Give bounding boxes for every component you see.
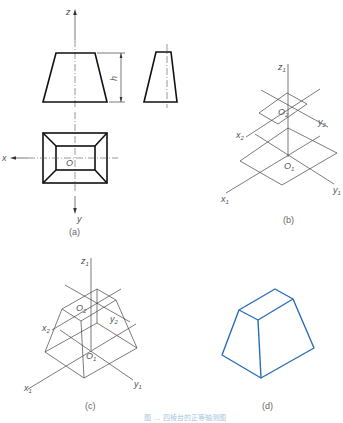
x-label: x: [1, 153, 7, 163]
side-view-trapezoid: [144, 52, 177, 102]
frustum-front-edge: [258, 320, 261, 378]
top-view-edge: [43, 133, 56, 146]
z1-label: z1: [277, 62, 286, 73]
panel-c: z1 O2 x2 y2 O1 x1 y1 (c): [23, 256, 142, 411]
y1-label: y1: [133, 379, 142, 390]
o2-label: O2: [278, 107, 289, 118]
frustum-axonometric-figure: z h x O y (a) z1: [0, 0, 343, 423]
panel-a-label: (a): [69, 227, 80, 237]
top-view-edge: [43, 170, 56, 183]
z-label: z: [65, 7, 71, 17]
figure-caption: 图 ... 四棱台的正等轴测图: [100, 412, 270, 421]
lateral-edge: [81, 321, 84, 378]
frustum-outline: [222, 299, 314, 378]
frustum-top-face: [239, 289, 293, 320]
y-label: y: [76, 214, 82, 224]
x1-label: x1: [220, 194, 229, 205]
x-arrow-icon: [10, 156, 16, 160]
panel-b-label: (b): [283, 215, 294, 225]
top-face: [62, 289, 116, 321]
x2-label: x2: [235, 130, 245, 141]
x1-label: x1: [23, 383, 32, 394]
origin-label: O: [66, 158, 73, 168]
x2-label: x2: [41, 323, 51, 334]
o2-label: O2: [76, 303, 87, 314]
y2-label: y2: [109, 314, 119, 325]
dim-arrow-icon: [120, 97, 123, 102]
top-view-edge: [95, 170, 107, 183]
o1-label: O1: [284, 161, 294, 172]
panel-d: (d): [222, 289, 314, 411]
o1-label: O1: [86, 351, 96, 362]
h-label: h: [109, 76, 119, 81]
z1-label: z1: [80, 256, 89, 267]
top-view-edge: [95, 133, 107, 146]
y1-axis: [60, 330, 133, 380]
panel-b: z1 O2 x2 y2 O1 x1 y1 (b): [220, 62, 341, 225]
panel-a: z h x O y (a): [1, 7, 177, 237]
panel-d-label: (d): [262, 401, 273, 411]
x1-axis: [226, 136, 320, 193]
panel-c-label: (c): [85, 401, 96, 411]
z-arrow-icon: [73, 9, 77, 15]
dim-arrow-icon: [120, 53, 123, 58]
y2-label: y2: [317, 117, 327, 128]
y1-label: y1: [332, 185, 341, 196]
lateral-edge: [116, 300, 137, 348]
